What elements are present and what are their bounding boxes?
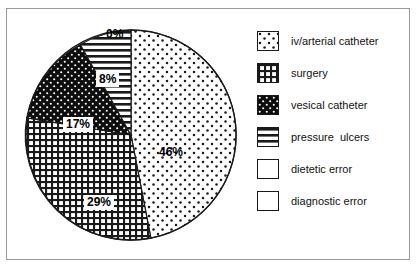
legend-swatch-white-empty-icon bbox=[257, 191, 279, 211]
pie-label-surgery: 29% bbox=[84, 195, 114, 210]
chart-legend: iv/arterial catheter surgery vesical cat… bbox=[257, 25, 409, 217]
legend-swatch-black-dots-icon bbox=[257, 95, 279, 115]
legend-label-diagnostic-error: diagnostic error bbox=[291, 196, 367, 207]
legend-swatch-crosshatch-grid-icon bbox=[257, 63, 279, 83]
legend-item-vesical-catheter: vesical catheter bbox=[257, 89, 409, 121]
pie-slice-iv-arterial-catheter bbox=[131, 30, 236, 238]
legend-label-iv-arterial-catheter: iv/arterial catheter bbox=[291, 36, 378, 47]
legend-label-vesical-catheter: vesical catheter bbox=[291, 100, 367, 111]
legend-item-iv-arterial-catheter: iv/arterial catheter bbox=[257, 25, 409, 57]
pie-label-dietetic-error: 0% bbox=[106, 28, 123, 41]
legend-label-dietetic-error: dietetic error bbox=[291, 164, 352, 175]
pie-chart-area: 0% 8% 17% 29% 46% bbox=[7, 9, 255, 261]
legend-item-diagnostic-error: diagnostic error bbox=[257, 185, 409, 217]
legend-swatch-white-empty-icon bbox=[257, 159, 279, 179]
pie-chart bbox=[21, 25, 241, 245]
pie-label-pressure-ulcers: 8% bbox=[96, 72, 119, 87]
legend-item-dietetic-error: dietetic error bbox=[257, 153, 409, 185]
legend-item-pressure-ulcers: pressure ulcers bbox=[257, 121, 409, 153]
chart-page: 0% 8% 17% 29% 46% iv/arterial catheter s… bbox=[0, 0, 417, 268]
pie-label-iv-arterial-catheter: 46% bbox=[159, 146, 183, 159]
legend-item-surgery: surgery bbox=[257, 57, 409, 89]
legend-swatch-horizontal-lines-icon bbox=[257, 127, 279, 147]
legend-label-surgery: surgery bbox=[291, 68, 328, 79]
pie-label-vesical-catheter: 17% bbox=[63, 117, 93, 132]
legend-label-pressure-ulcers: pressure ulcers bbox=[291, 132, 369, 143]
legend-swatch-sparse-dots-icon bbox=[257, 31, 279, 51]
chart-frame: 0% 8% 17% 29% 46% iv/arterial catheter s… bbox=[6, 8, 410, 260]
